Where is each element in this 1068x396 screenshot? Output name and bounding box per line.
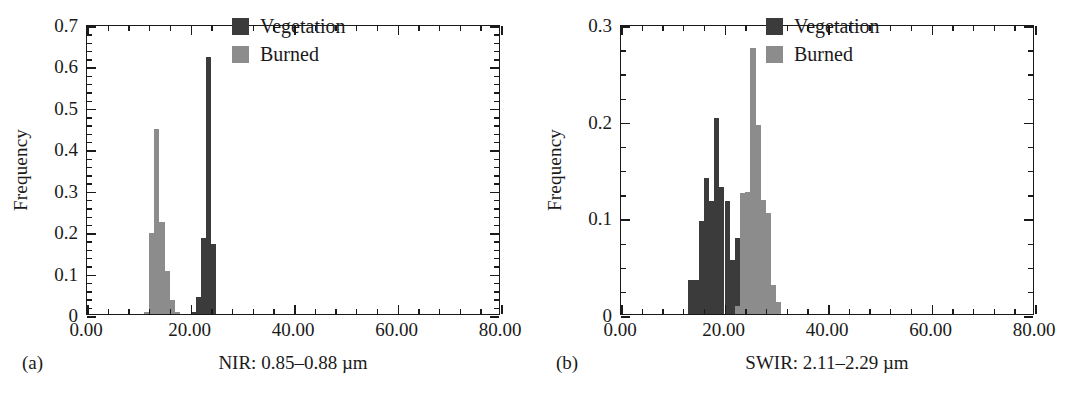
axis-tick [480,26,481,31]
y-tick-label: 0.4 [30,140,78,159]
legend-swatch-burned-icon [232,46,249,63]
axis-tick [87,291,92,292]
axis-tick [490,316,499,318]
axis-tick [1024,219,1033,221]
axis-tick [253,309,254,314]
axis-tick [494,308,499,309]
axis-tick [704,309,705,314]
axis-tick [828,305,830,314]
axis-tick [932,305,934,314]
axis-tick [494,34,499,35]
axis-tick [494,266,499,267]
axis-tick [807,309,808,314]
y-tick-label: 0.6 [30,57,78,76]
axis-tick [494,142,499,143]
bars-container-b [621,26,1033,314]
axis-tick [994,26,995,31]
y-axis-label-b: Frequency [542,25,568,315]
axis-tick [191,26,193,35]
axis-tick [642,309,643,314]
axis-tick [621,171,626,172]
x-tick-label: 20.00 [145,320,235,339]
axis-tick [108,26,109,31]
axis-tick [494,200,499,201]
axis-tick [439,26,440,31]
axis-tick [87,283,92,284]
x-tick-label: 0.00 [41,320,131,339]
axis-tick [87,92,92,93]
axis-tick [494,134,499,135]
legend-a: Vegetation Burned [232,12,346,68]
axis-tick [191,305,193,314]
bars-container-a [87,26,499,314]
y-tick-label: 0.3 [30,181,78,200]
axis-tick [87,175,92,176]
axis-tick [1035,305,1037,314]
legend-label-vegetation: Vegetation [260,16,346,36]
axis-tick [398,305,400,314]
legend-item-vegetation: Vegetation [766,12,880,40]
y-tick-label: 0.2 [564,112,612,131]
axis-tick [87,192,96,194]
axis-tick [621,26,623,35]
axis-tick [170,309,171,314]
axis-tick [315,309,316,314]
axis-tick [952,309,953,314]
axis-tick [494,51,499,52]
x-tick-label: 60.00 [352,320,442,339]
axis-tick [501,26,503,35]
axis-tick [335,309,336,314]
axis-tick [911,26,912,31]
axis-tick [745,309,746,314]
axis-tick [460,26,461,31]
axis-tick [418,26,419,31]
axis-tick [87,316,96,318]
axis-tick [494,167,499,168]
axis-tick [1028,147,1033,148]
axis-tick [356,26,357,31]
axis-tick [1028,292,1033,293]
axis-tick [621,244,626,245]
y-tick-label: 0.3 [564,16,612,35]
axis-tick [1028,268,1033,269]
axis-tick [1028,74,1033,75]
axis-tick [494,59,499,60]
legend-item-vegetation: Vegetation [232,12,346,40]
axis-tick [494,175,499,176]
axis-tick [621,219,630,221]
x-tick-label: 80.00 [989,320,1068,339]
x-axis-title-b: SWIR: 2.11–2.29 µm [620,352,1034,374]
histogram-bar [175,312,180,314]
axis-tick [480,309,481,314]
axis-tick [621,74,626,75]
axis-tick [128,26,129,31]
panel-tag-a: (a) [22,352,43,374]
axis-tick [621,123,630,125]
chart-panel-a: Frequency 00.10.20.30.40.50.60.7 (a) NIR… [0,0,534,396]
axis-tick [87,217,92,218]
axis-tick [494,299,499,300]
axis-tick [994,309,995,314]
axis-tick [87,299,92,300]
legend-item-burned: Burned [766,40,880,68]
axis-tick [418,309,419,314]
axis-tick [87,134,92,135]
axis-tick [87,142,92,143]
axis-tick [1024,316,1033,318]
axis-tick [460,309,461,314]
axis-tick [642,26,643,31]
figure-histograms: Frequency 00.10.20.30.40.50.60.7 (a) NIR… [0,0,1068,396]
axis-tick [356,309,357,314]
y-axis-label-a: Frequency [8,25,34,315]
axis-tick [108,309,109,314]
legend-swatch-vegetation-icon [232,18,249,35]
axis-tick [952,26,953,31]
axis-tick [87,225,92,226]
axis-tick [232,309,233,314]
axis-tick [932,26,934,35]
legend-swatch-vegetation-icon [766,18,783,35]
legend-label-vegetation: Vegetation [794,16,880,36]
x-axis-title-a: NIR: 0.85–0.88 µm [86,352,500,374]
axis-tick [766,309,767,314]
axis-tick [211,26,212,31]
